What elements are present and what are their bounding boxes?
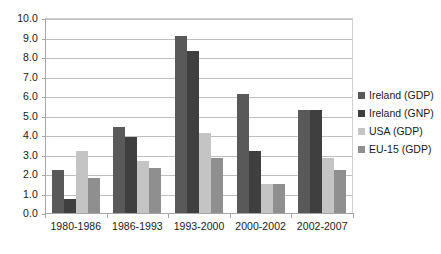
x-axis-tickmarks	[45, 214, 354, 219]
bar	[64, 199, 76, 213]
x-tickmark	[168, 214, 169, 218]
bar	[249, 151, 261, 213]
legend-swatch-icon	[358, 146, 365, 153]
x-tick-label: 2002-2007	[297, 221, 348, 232]
bar	[76, 151, 88, 213]
legend-swatch-icon	[358, 92, 365, 99]
legend-item[interactable]: Ireland (GDP)	[358, 86, 441, 104]
y-tick-label: 4.0	[23, 130, 38, 141]
x-tickmark	[107, 214, 108, 218]
y-tick-label: 2.0	[23, 169, 38, 180]
bar	[125, 137, 137, 213]
x-tick-label: 1993-2000	[174, 221, 225, 232]
bar-group	[45, 18, 107, 213]
bar-group	[107, 18, 169, 213]
legend-swatch-icon	[358, 110, 365, 117]
x-tickmark	[353, 214, 354, 218]
bar	[149, 168, 161, 213]
bar	[211, 158, 223, 213]
bar	[261, 184, 273, 213]
bar	[237, 94, 249, 213]
bar	[199, 133, 211, 213]
legend-swatch-icon	[358, 128, 365, 135]
y-tick-label: 1.0	[23, 188, 38, 199]
bar	[137, 161, 149, 213]
bar	[175, 36, 187, 213]
bar	[310, 110, 322, 213]
x-axis: 1980-19861986-19931993-20002000-20022002…	[45, 221, 354, 241]
bar	[88, 178, 100, 213]
y-tick-label: 7.0	[23, 71, 38, 82]
legend-item[interactable]: Ireland (GNP)	[358, 104, 441, 122]
x-tickmark	[291, 214, 292, 218]
y-tick-label: 3.0	[23, 149, 38, 160]
legend: Ireland (GDP)Ireland (GNP)USA (GDP)EU-15…	[358, 86, 441, 158]
y-axis: 0.01.02.03.04.05.06.07.08.09.010.0	[0, 0, 45, 254]
legend-item[interactable]: USA (GDP)	[358, 122, 441, 140]
legend-label: EU-15 (GDP)	[369, 144, 431, 155]
legend-item[interactable]: EU-15 (GDP)	[358, 140, 441, 158]
legend-label: USA (GDP)	[369, 126, 423, 137]
legend-label: Ireland (GDP)	[369, 90, 434, 101]
bar	[187, 51, 199, 213]
y-tick-label: 10.0	[17, 13, 38, 24]
x-tickmark	[45, 214, 46, 218]
bar	[113, 127, 125, 213]
bar	[273, 184, 285, 213]
bars-layer	[45, 18, 354, 214]
legend-label: Ireland (GNP)	[369, 108, 434, 119]
y-tick-label: 8.0	[23, 52, 38, 63]
x-tick-label: 1980-1986	[50, 221, 101, 232]
y-tick-label: 9.0	[23, 32, 38, 43]
x-tickmark	[230, 214, 231, 218]
bar	[322, 158, 334, 213]
bar-group	[230, 18, 292, 213]
bar	[52, 170, 64, 213]
bar-group	[168, 18, 230, 213]
bar-group	[291, 18, 353, 213]
bar-chart: 0.01.02.03.04.05.06.07.08.09.010.0 1980-…	[0, 0, 441, 254]
bar	[334, 170, 346, 213]
x-tick-label: 1986-1993	[112, 221, 163, 232]
y-tick-label: 5.0	[23, 110, 38, 121]
y-tick-label: 0.0	[23, 208, 38, 219]
y-tick-label: 6.0	[23, 91, 38, 102]
x-tick-label: 2000-2002	[235, 221, 286, 232]
bar	[298, 110, 310, 213]
